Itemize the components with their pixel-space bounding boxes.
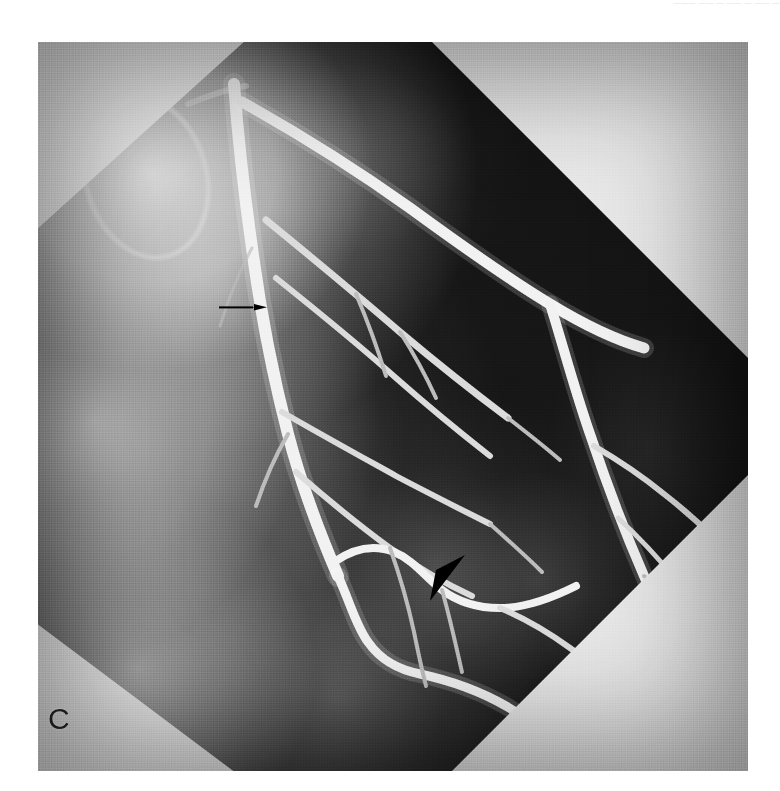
catheter-loop [66, 82, 227, 273]
angiogram-image: C [38, 42, 748, 771]
panel-label: C [48, 704, 70, 734]
page-running-head: — —— — —— — —— ——— [395, 0, 780, 5]
coronary-vessel-tree [38, 42, 748, 771]
annotation-arrow-icon [218, 298, 268, 316]
annotation-arrowhead-icon [424, 552, 468, 604]
figure-page: — —— — —— — —— ——— [0, 0, 780, 791]
